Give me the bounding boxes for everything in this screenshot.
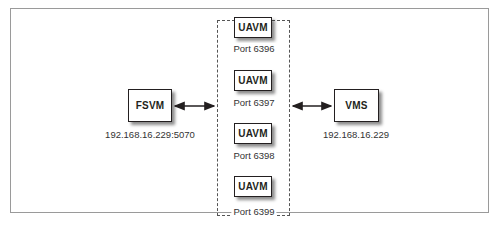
connector-arrows <box>0 0 497 237</box>
